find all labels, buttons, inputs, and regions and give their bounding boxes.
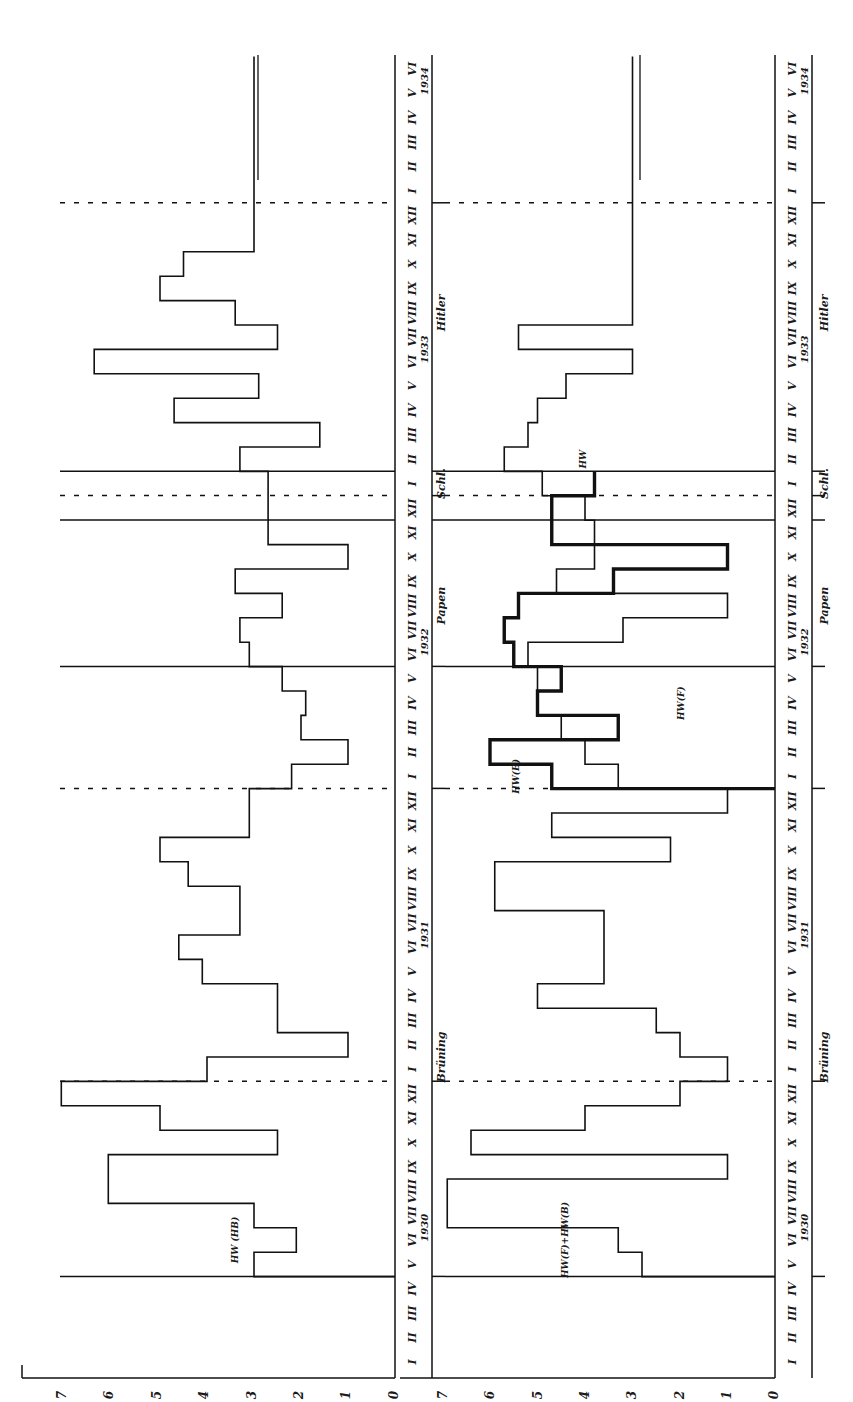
month-label: VI: [406, 61, 419, 76]
month-label: XI: [786, 232, 799, 248]
month-label: V: [786, 673, 799, 683]
month-label: IV: [786, 109, 799, 125]
month-label: XI: [786, 818, 799, 834]
month-label: XII: [406, 1083, 419, 1104]
year-label: 1933: [799, 335, 810, 363]
month-label: X: [406, 1138, 419, 1148]
month-label: II: [786, 1039, 799, 1051]
month-label: III: [406, 719, 419, 736]
month-label: IX: [786, 574, 799, 589]
year-label: 1931: [799, 921, 810, 949]
month-label: II: [406, 453, 419, 465]
month-label: IV: [786, 695, 799, 711]
month-label: IX: [406, 281, 419, 296]
month-label: VII: [406, 913, 419, 933]
month-label: VI: [406, 1232, 419, 1247]
month-label: VI: [406, 940, 419, 955]
month-label: VIII: [406, 300, 419, 325]
month-label: XII: [786, 498, 799, 519]
month-label: IV: [406, 402, 419, 418]
year-label: 1933: [419, 335, 430, 363]
y-tick-right: 6: [483, 1390, 497, 1399]
year-label: 1934: [799, 67, 810, 95]
y-tick-left: 2: [292, 1391, 306, 1400]
month-label: XI: [406, 232, 419, 248]
month-label: III: [406, 133, 419, 150]
series-hw-b-hw-bold-: [490, 471, 775, 788]
month-label: II: [786, 453, 799, 465]
month-label: IX: [786, 1159, 799, 1174]
month-label: I: [786, 1066, 799, 1073]
month-label: VIII: [786, 1178, 799, 1203]
month-label: XI: [406, 818, 419, 834]
month-label: IX: [786, 281, 799, 296]
month-label: I: [786, 1359, 799, 1366]
month-label: III: [786, 426, 799, 443]
era-label-left: Schl.: [435, 468, 448, 499]
month-label: VI: [786, 354, 799, 369]
month-label: I: [406, 1359, 419, 1366]
month-label: VII: [786, 1205, 799, 1225]
month-label: VI: [786, 647, 799, 662]
month-label: I: [786, 187, 799, 194]
month-label: XII: [406, 205, 419, 226]
era-label-right: Hitler: [818, 293, 831, 332]
month-label: II: [406, 1039, 419, 1051]
y-tick-right: 2: [673, 1391, 687, 1400]
era-label-left: Brüning: [435, 1031, 448, 1083]
month-label: XII: [786, 791, 799, 812]
month-label: I: [406, 480, 419, 487]
month-label: IX: [406, 867, 419, 882]
month-label: IV: [786, 1280, 799, 1296]
month-label: X: [406, 845, 419, 855]
y-tick-right: 5: [531, 1391, 545, 1399]
month-label: X: [786, 552, 799, 562]
month-label: VIII: [786, 886, 799, 911]
month-label: VI: [406, 647, 419, 662]
month-label: IX: [786, 867, 799, 882]
era-label-left: Papen: [435, 587, 448, 626]
month-label: XI: [406, 1110, 419, 1126]
y-tick-left: 0: [387, 1390, 401, 1399]
y-tick-left: 3: [245, 1391, 259, 1399]
month-label: V: [406, 673, 419, 683]
month-label: II: [406, 1332, 419, 1344]
month-label: XII: [786, 205, 799, 226]
year-label: 1934: [419, 67, 430, 95]
month-label: VI: [786, 61, 799, 76]
month-label: I: [406, 1066, 419, 1073]
series-annotation: HW(F): [676, 686, 686, 721]
month-label: V: [786, 380, 799, 390]
year-label: 1931: [419, 921, 430, 949]
month-label: VI: [786, 1232, 799, 1247]
y-tick-left: 7: [55, 1390, 69, 1399]
month-label: VII: [406, 327, 419, 347]
month-label: II: [406, 160, 419, 172]
month-label: III: [406, 1012, 419, 1029]
month-label: XI: [786, 1110, 799, 1126]
month-label: VIII: [786, 593, 799, 618]
year-label: 1930: [419, 1214, 430, 1242]
month-label: V: [786, 1259, 799, 1269]
month-label: XII: [406, 498, 419, 519]
month-label: III: [786, 1012, 799, 1029]
month-label: X: [786, 1138, 799, 1148]
y-tick-right: 4: [578, 1391, 592, 1399]
y-tick-left: 5: [150, 1391, 164, 1399]
month-label: VII: [786, 620, 799, 640]
y-tick-right: 0: [767, 1390, 781, 1399]
y-tick-right: 7: [436, 1390, 450, 1399]
month-label: VIII: [406, 1178, 419, 1203]
month-label: VII: [406, 1205, 419, 1225]
month-label: X: [406, 552, 419, 562]
era-label-right: Papen: [818, 587, 831, 626]
month-label: IV: [786, 402, 799, 418]
month-label: III: [786, 719, 799, 736]
month-label: V: [406, 966, 419, 976]
month-label: VI: [406, 354, 419, 369]
year-label: 1932: [799, 628, 810, 656]
y-tick-left: 6: [102, 1390, 116, 1399]
month-label: II: [406, 746, 419, 758]
month-label: IV: [406, 695, 419, 711]
month-label: XII: [406, 791, 419, 812]
